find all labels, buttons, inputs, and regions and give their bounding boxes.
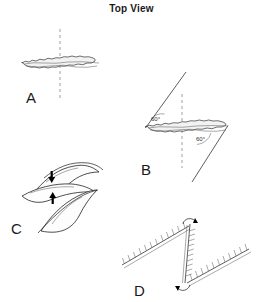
panel-b-angle-label-lower: 60° xyxy=(196,136,206,142)
panel-a: A xyxy=(22,29,99,106)
panel-d-segment-3 xyxy=(187,244,251,286)
panel-a-label: A xyxy=(26,89,36,106)
panel-b-label: B xyxy=(141,161,151,178)
panel-d-label: D xyxy=(134,282,145,299)
panel-d-rotation-arrow-top-icon xyxy=(183,218,198,224)
panel-d-segment-2 xyxy=(183,224,196,283)
panel-d-segment-1 xyxy=(122,222,190,268)
figure-canvas: Top View A xyxy=(0,0,263,302)
panel-d-rotation-arrow-bottom-icon xyxy=(175,285,190,291)
panel-d: D xyxy=(122,218,251,299)
figure-drawing: A 60° 60° B xyxy=(0,0,263,302)
panel-b-angle-label-upper: 60° xyxy=(151,116,161,122)
panel-c: C xyxy=(11,163,103,237)
panel-b: 60° 60° B xyxy=(141,72,228,182)
panel-c-label: C xyxy=(11,220,22,237)
panel-b-line-lower xyxy=(192,126,228,183)
panel-a-band xyxy=(22,56,99,68)
